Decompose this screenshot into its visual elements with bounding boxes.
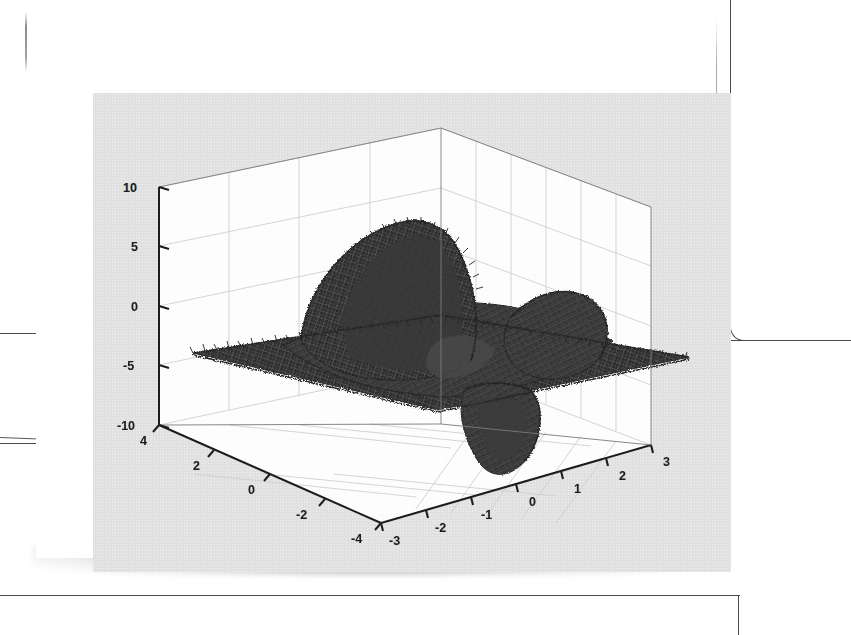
- x-tick-1: 1: [574, 482, 581, 496]
- right-callout-border: [730, 0, 851, 341]
- x-tick-m2: -2: [435, 521, 446, 535]
- y-tick-0: 0: [248, 483, 255, 497]
- z-tick-10: 10: [123, 181, 137, 195]
- x-tick-0: 0: [529, 495, 536, 509]
- y-tick-2: 2: [193, 459, 200, 473]
- bottom-box-border-top: [0, 595, 740, 596]
- y-tick-m4: -4: [351, 532, 362, 546]
- z-tick-m5: -5: [123, 359, 134, 373]
- x-tick-2: 2: [619, 469, 626, 483]
- y-tick-4: 4: [140, 434, 147, 448]
- x-tick-m3: -3: [389, 534, 400, 548]
- bottom-box-border-right: [738, 595, 739, 635]
- z-tick-m10: -10: [117, 419, 135, 433]
- figure-sheet: 10 5 0 -5 -10 4 2 0 -2 -4 -3 -2 -1 0 1 2…: [36, 36, 716, 558]
- z-tick-0: 0: [131, 300, 138, 314]
- matlab-figure-canvas: 10 5 0 -5 -10 4 2 0 -2 -4 -3 -2 -1 0 1 2…: [93, 93, 731, 572]
- right-callout-border-bottom: [730, 340, 850, 341]
- y-tick-m2: -2: [296, 508, 307, 522]
- axes-3d: [93, 93, 731, 572]
- z-tick-5: 5: [131, 240, 138, 254]
- x-tick-m1: -1: [481, 508, 492, 522]
- page-gutter-rule: [25, 12, 27, 72]
- x-tick-3: 3: [663, 455, 670, 469]
